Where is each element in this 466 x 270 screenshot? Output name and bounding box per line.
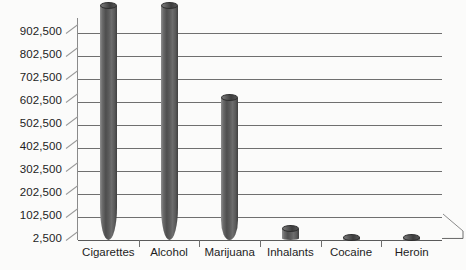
gridline xyxy=(78,217,442,218)
gridline xyxy=(78,102,442,103)
gridline xyxy=(78,56,442,57)
y-tick-label: 302,500 xyxy=(20,163,62,175)
bar xyxy=(403,237,420,240)
y-axis-labels: 2,500102,500202,500302,500402,500502,500… xyxy=(0,0,70,270)
y-tick-label: 702,500 xyxy=(20,71,62,83)
x-tick-mark xyxy=(381,240,382,247)
x-tick-mark xyxy=(139,240,140,247)
plot-area xyxy=(78,18,442,240)
bar-body xyxy=(161,6,178,240)
y-tick-label: 502,500 xyxy=(20,117,62,129)
gridline xyxy=(78,194,442,195)
y-tick-label: 602,500 xyxy=(20,94,62,106)
bar-top-ellipse xyxy=(282,225,299,232)
gridline xyxy=(78,33,442,34)
bar xyxy=(221,98,238,240)
bar-top-ellipse xyxy=(403,234,420,241)
floor-perspective-lip xyxy=(442,213,464,239)
bar-top-ellipse xyxy=(343,234,360,241)
x-tick-label: Heroin xyxy=(367,246,457,258)
bar-body xyxy=(100,6,117,240)
bar-body xyxy=(221,98,238,240)
gridline xyxy=(78,171,442,172)
x-tick-mark xyxy=(260,240,261,247)
bar xyxy=(282,229,299,240)
bar xyxy=(343,237,360,240)
gridline xyxy=(78,79,442,80)
y-tick-label: 802,500 xyxy=(20,48,62,60)
x-tick-mark xyxy=(321,240,322,247)
gridline xyxy=(78,125,442,126)
bar xyxy=(100,6,117,240)
y-tick-label: 202,500 xyxy=(20,186,62,198)
x-tick-mark xyxy=(199,240,200,247)
x-axis-labels: CigarettesAlcoholMarijuanaInhalantsCocai… xyxy=(0,244,466,266)
gridline xyxy=(78,148,442,149)
bar xyxy=(161,6,178,240)
bar-chart: 2,500102,500202,500302,500402,500502,500… xyxy=(0,0,466,270)
y-tick-label: 902,500 xyxy=(20,25,62,37)
y-tick-label: 2,500 xyxy=(33,232,62,244)
y-tick-label: 402,500 xyxy=(20,140,62,152)
y-tick-label: 102,500 xyxy=(20,209,62,221)
